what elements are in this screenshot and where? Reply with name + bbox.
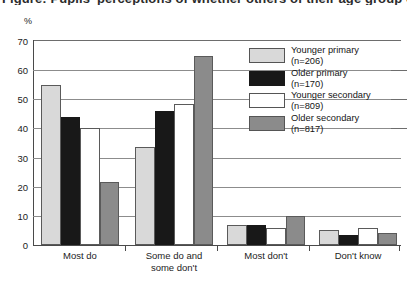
bar [61,117,81,245]
bar [319,230,339,245]
chart-legend: Younger primary(n=206)Older primary(n=17… [249,47,369,137]
x-axis-tick [309,246,310,251]
bar [339,235,359,245]
y-axis-tick-label: 60 [17,65,28,76]
y-axis-tick-label: 30 [17,152,28,163]
page-rule-mark [391,99,407,100]
bar [358,228,378,245]
legend-label: Older primary(n=170) [291,68,347,90]
legend-swatch [249,116,285,131]
legend-series-name: Younger primary [291,45,359,56]
bar [155,111,175,245]
legend-series-name: Younger secondary [291,90,371,101]
x-axis-category-label: Don't know [335,250,382,262]
legend-item[interactable]: Younger secondary(n=809) [249,92,369,115]
bar [80,128,100,245]
x-axis-tick [217,246,218,251]
page-rule-mark [391,128,407,129]
legend-sample-size: (n=206) [291,56,359,67]
y-axis-tick-label: 0 [23,240,28,251]
bar [378,233,398,245]
bar [41,85,61,245]
legend-sample-size: (n=170) [291,79,347,90]
bar [194,56,214,245]
legend-sample-size: (n=809) [291,101,371,112]
bar [174,104,194,245]
legend-item[interactable]: Older primary(n=170) [249,70,369,93]
bar [100,182,120,245]
y-axis-tick-label: 70 [17,36,28,47]
legend-sample-size: (n=817) [291,124,359,135]
legend-label: Younger primary(n=206) [291,45,359,67]
y-axis-tick-label: 20 [17,181,28,192]
x-axis-tick [399,246,400,251]
figure-title: Figure: Pupils' perceptions of whether o… [0,0,407,5]
legend-series-name: Older primary [291,68,347,79]
legend-swatch [249,71,285,86]
bar [227,225,247,245]
legend-swatch [249,48,285,63]
plot-top-border [33,40,401,41]
x-axis-category-label: Some do and some don't [146,250,203,273]
chart-page: Figure: Pupils' perceptions of whether o… [0,0,407,282]
y-axis-tick-label: 50 [17,94,28,105]
page-rule-mark [391,70,407,71]
legend-series-name: Older secondary [291,113,359,124]
bar [135,147,155,245]
bar [286,216,306,245]
bar [266,228,286,245]
y-axis-tick-label: 40 [17,123,28,134]
legend-item[interactable]: Younger primary(n=206) [249,47,369,70]
x-axis-tick [125,246,126,251]
x-axis-category-label: Most do [63,250,97,262]
legend-swatch [249,93,285,108]
y-axis-tick-label: 10 [17,210,28,221]
x-axis-category-label: Most don't [244,250,288,262]
bar [247,225,267,245]
legend-label: Older secondary(n=817) [291,113,359,135]
legend-label: Younger secondary(n=809) [291,90,371,112]
y-axis-unit-label: % [24,16,32,26]
legend-item[interactable]: Older secondary(n=817) [249,115,369,138]
